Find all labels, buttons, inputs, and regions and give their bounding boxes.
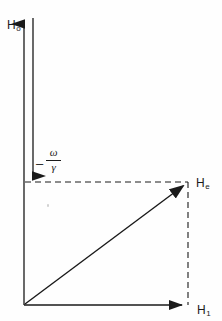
- figure-canvas: Ho H1 He – ω γ: [0, 0, 222, 321]
- vector-diagram: [0, 0, 222, 321]
- vector-label-omega-gamma: – ω γ: [36, 147, 61, 173]
- fraction-numerator: ω: [48, 147, 60, 159]
- axis-label-h0: Ho: [7, 16, 21, 33]
- scan-artifact-speck: [47, 204, 49, 207]
- fraction-omega-over-gamma: ω γ: [46, 147, 61, 173]
- vector-label-he: He: [196, 174, 210, 191]
- axis-label-h1: H1: [197, 301, 211, 318]
- fraction-denominator: γ: [50, 162, 58, 174]
- minus-sign: –: [36, 157, 43, 170]
